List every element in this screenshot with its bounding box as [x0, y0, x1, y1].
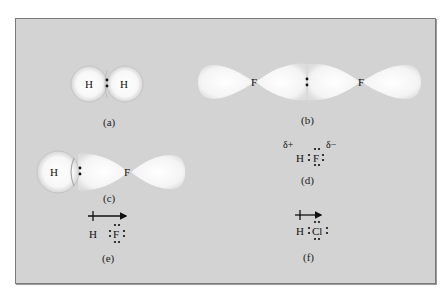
panel-label-f: (f): [303, 251, 314, 264]
h-sphere: [37, 151, 79, 193]
electron-dot: [306, 78, 309, 81]
electron-dot: [318, 164, 320, 166]
electron-dot: [314, 221, 316, 223]
f-lobe-inner-right: [308, 64, 360, 101]
electron-dot: [318, 221, 320, 223]
panel-b-f2-molecule: F F (b): [198, 64, 421, 127]
partial-positive-charge: δ+: [283, 139, 294, 150]
electron-dot: [118, 224, 120, 226]
electron-dot: [314, 164, 316, 166]
f-lobe-inner: [78, 154, 128, 191]
atom-h: H: [50, 166, 58, 178]
electron-dot: [79, 167, 82, 170]
electron-dot: [322, 154, 324, 156]
electron-dot: [322, 159, 324, 161]
electron-dot: [318, 148, 320, 150]
partial-negative-charge: δ−: [326, 139, 337, 150]
atom-f: F: [124, 166, 130, 178]
panel-a-h2-molecule: H H (a): [71, 66, 143, 129]
f-lobe-inner-left: [256, 64, 306, 101]
f-lobe-outer-left: [198, 65, 254, 99]
panel-label-d: (d): [301, 174, 314, 187]
figure-canvas: H H (a) F F (b) H F (c) δ+ δ− H F: [0, 0, 447, 298]
panel-c-hf-overlap: H F (c): [37, 151, 185, 205]
atom-f-left: F: [251, 76, 257, 88]
atom-h: H: [296, 225, 304, 237]
atom-cl: Cl: [312, 225, 322, 237]
f-lobe-outer: [131, 155, 185, 189]
electron-dot: [326, 227, 328, 229]
panel-d-hf-lewis-partial-charges: δ+ δ− H F (d): [283, 139, 337, 187]
atom-h: H: [89, 228, 97, 240]
electron-dot: [123, 235, 125, 237]
electron-dot: [326, 232, 328, 234]
electron-dot: [308, 159, 310, 161]
panel-label-a: (a): [103, 116, 116, 129]
atom-h-right: H: [120, 78, 128, 90]
electron-dot: [308, 227, 310, 229]
electron-dot: [314, 148, 316, 150]
electron-dot: [308, 154, 310, 156]
electron-dot: [318, 238, 320, 240]
electron-dot: [114, 241, 116, 243]
electron-dot: [106, 79, 109, 82]
electron-dot: [109, 235, 111, 237]
atom-h: H: [296, 152, 304, 164]
electron-dot: [123, 230, 125, 232]
electron-dot: [109, 230, 111, 232]
electron-dot: [79, 173, 82, 176]
panel-label-b: (b): [301, 114, 314, 127]
panel-f-hcl-dipole: H Cl (f): [295, 210, 328, 264]
panel-label-e: (e): [102, 252, 115, 265]
atom-f: F: [313, 152, 319, 164]
electron-dot: [106, 85, 109, 88]
atom-f: F: [113, 228, 119, 240]
atom-f-right: F: [358, 76, 364, 88]
electron-dot: [114, 224, 116, 226]
electron-dot: [314, 238, 316, 240]
panel-label-c: (c): [103, 192, 116, 205]
atom-h-left: H: [85, 78, 93, 90]
panel-e-hf-dipole: H F (e): [88, 211, 126, 265]
electron-dot: [308, 232, 310, 234]
electron-dot: [118, 241, 120, 243]
electron-dot: [306, 84, 309, 87]
f-lobe-outer-right: [362, 65, 421, 99]
